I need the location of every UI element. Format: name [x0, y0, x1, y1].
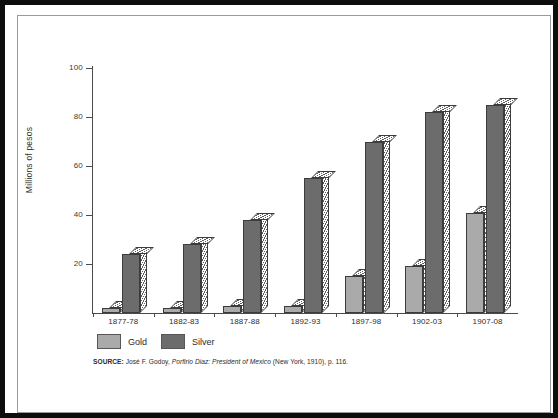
bar-front-face	[466, 213, 484, 313]
bar-top-face	[250, 213, 275, 220]
bar-front-face	[223, 306, 241, 313]
bar-front-face	[284, 306, 302, 313]
bar-side-face	[504, 98, 511, 313]
y-tick-mark	[86, 117, 92, 118]
bar-gold-1882-83	[163, 308, 181, 313]
legend-item-gold: Gold	[97, 334, 147, 349]
bar-front-face	[102, 308, 120, 313]
bar-front-face	[122, 254, 140, 313]
bar-silver-1902-03	[425, 112, 443, 313]
bar-side-face	[443, 105, 450, 313]
y-tick-mark	[86, 215, 92, 216]
bar-gold-1892-93	[284, 306, 302, 313]
x-tick-label: 1877-78	[93, 317, 153, 326]
x-tick-label: 1902-03	[397, 317, 457, 326]
source-label: SOURCE:	[93, 358, 124, 365]
x-tick-label: 1907-08	[458, 317, 518, 326]
y-tick-label: 60	[53, 161, 83, 170]
bar-front-face	[345, 276, 363, 313]
bar-front-face	[183, 244, 201, 313]
chart-plot-area: Millions of pesos 20406080100 1877-78188…	[5, 5, 558, 418]
bar-side-face	[322, 171, 329, 313]
bar-silver-1897-98	[365, 142, 383, 314]
bar-top-face	[432, 105, 457, 112]
figure-outer-border: Millions of pesos 20406080100 1877-78188…	[0, 0, 558, 418]
legend-item-silver: Silver	[161, 334, 215, 349]
bar-gold-1907-08	[466, 213, 484, 313]
bar-side-face	[140, 247, 147, 313]
y-tick-label: 20	[53, 259, 83, 268]
bar-side-face	[383, 135, 390, 314]
legend-swatch-silver	[161, 334, 185, 349]
bar-front-face	[365, 142, 383, 314]
bar-silver-1907-08	[486, 105, 504, 313]
y-tick-mark	[86, 68, 92, 69]
bar-front-face	[425, 112, 443, 313]
x-tick-label: 1882-83	[154, 317, 214, 326]
bar-gold-1897-98	[345, 276, 363, 313]
bar-side-face	[261, 213, 268, 313]
legend-label: Silver	[192, 337, 215, 347]
bar-top-face	[311, 171, 336, 178]
x-tick-label: 1892-93	[276, 317, 336, 326]
source-author: José F. Godoy,	[126, 358, 170, 365]
bar-gold-1877-78	[102, 308, 120, 313]
bar-top-face	[372, 135, 397, 142]
x-axis-line	[92, 313, 518, 314]
y-tick-mark	[86, 264, 92, 265]
bar-front-face	[163, 308, 181, 313]
bar-front-face	[486, 105, 504, 313]
bar-top-face	[129, 247, 154, 254]
bar-front-face	[405, 266, 423, 313]
bar-top-face	[493, 98, 518, 105]
bar-front-face	[304, 178, 322, 313]
y-tick-mark	[86, 166, 92, 167]
bar-silver-1892-93	[304, 178, 322, 313]
source-title: Porfirio Diaz: President of Mexico	[172, 358, 271, 365]
y-tick-label: 40	[53, 210, 83, 219]
legend-swatch-gold	[97, 334, 121, 349]
bar-gold-1902-03	[405, 266, 423, 313]
x-tick-label: 1887-88	[215, 317, 275, 326]
source-note: SOURCE: José F. Godoy, Porfirio Diaz: Pr…	[93, 358, 348, 365]
bar-gold-1887-88	[223, 306, 241, 313]
source-publication: (New York, 1910), p. 116.	[273, 358, 348, 365]
bar-silver-1877-78	[122, 254, 140, 313]
bar-side-face	[201, 237, 208, 313]
bar-silver-1887-88	[243, 220, 261, 313]
y-axis-title: Millions of pesos	[24, 100, 34, 220]
y-tick-label: 80	[53, 112, 83, 121]
y-tick-label: 100	[53, 63, 83, 72]
bar-top-face	[190, 237, 215, 244]
y-axis-line	[92, 66, 93, 314]
chart-legend: GoldSilver	[97, 334, 215, 349]
legend-label: Gold	[128, 337, 147, 347]
bar-front-face	[243, 220, 261, 313]
bar-silver-1882-83	[183, 244, 201, 313]
x-tick-label: 1897-98	[336, 317, 396, 326]
